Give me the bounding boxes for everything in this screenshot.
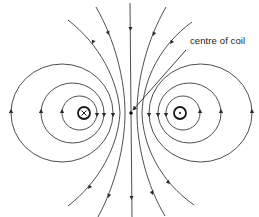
arrow-down-icon [95,113,99,117]
arrow-down-icon [106,31,111,36]
arrow-up-icon [250,109,254,113]
arrow-up-icon [198,109,202,113]
arrow-up-icon [60,109,64,113]
arrow-down-icon [147,113,151,117]
arrow-down-icon [156,113,160,117]
coil-cross-into-page [78,107,90,119]
arrow-down-icon [102,113,106,117]
field-lines-figure [0,0,259,217]
arrow-up-icon [39,109,43,113]
arrow-up-icon [9,109,13,113]
arrow-down-icon [129,27,133,31]
arrow-down-icon [130,196,134,200]
arrow-down-icon [111,113,115,117]
right-field-loops [147,64,254,162]
centre-of-coil-label: centre of coil [190,35,245,46]
arrow-down-icon [164,113,168,117]
arrow-up-icon [219,109,223,113]
centre-point [129,111,133,115]
arrow-icon [90,38,96,44]
label-pointer-arrow [133,50,186,110]
coil-field-diagram: centre of coil [0,0,259,217]
dot-icon [179,112,181,114]
cross-icon [82,111,87,116]
left-field-loops [9,64,115,162]
coil-dot-out-of-page [174,107,186,119]
